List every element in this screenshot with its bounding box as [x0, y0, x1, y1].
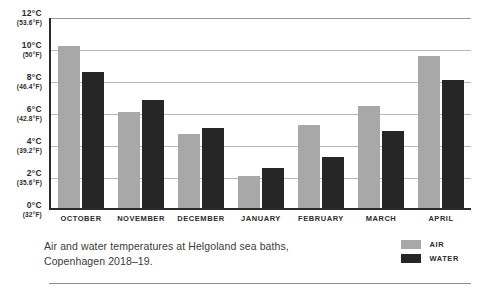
y-tick-celsius: 10°C: [0, 41, 42, 51]
y-tick-10: 10°C(50°F): [0, 41, 42, 58]
legend-label-water: WATER: [429, 254, 459, 263]
y-tick-0: 0°C(32°F): [0, 201, 42, 218]
bar-water-october[interactable]: [82, 72, 104, 208]
bar-water-january[interactable]: [262, 168, 284, 208]
x-label-december: DECEMBER: [171, 214, 231, 223]
y-tick-12: 12°C(53.6°F): [0, 9, 42, 26]
legend-label-air: AIR: [429, 240, 444, 249]
bar-group-january: [231, 18, 291, 208]
y-tick-celsius: 2°C: [0, 169, 42, 179]
bar-water-march[interactable]: [382, 131, 404, 208]
bar-water-december[interactable]: [202, 128, 224, 208]
x-label-october: OCTOBER: [51, 214, 111, 223]
y-tick-4: 4°C(39.2°F): [0, 137, 42, 154]
y-tick-fahrenheit: (32°F): [0, 211, 42, 218]
bar-air-january[interactable]: [238, 176, 260, 208]
x-label-march: MARCH: [351, 214, 411, 223]
bar-air-february[interactable]: [298, 125, 320, 208]
bar-air-april[interactable]: [418, 56, 440, 208]
x-axis-labels: OCTOBERNOVEMBERDECEMBERJANUARYFEBRUARYMA…: [51, 214, 471, 223]
legend-item-air: AIR: [401, 240, 459, 249]
y-tick-fahrenheit: (39.2°F): [0, 147, 42, 154]
x-label-february: FEBRUARY: [291, 214, 351, 223]
y-tick-celsius: 6°C: [0, 105, 42, 115]
y-tick-celsius: 12°C: [0, 9, 42, 19]
y-tick-fahrenheit: (50°F): [0, 51, 42, 58]
caption-line-1: Air and water temperatures at Helgoland …: [44, 239, 344, 254]
bar-group-october: [51, 18, 111, 208]
bar-air-march[interactable]: [358, 106, 380, 208]
y-tick-fahrenheit: (35.6°F): [0, 179, 42, 186]
chart-figure: 12°C(53.6°F)10°C(50°F)8°C(46.4°F)6°C(42.…: [0, 0, 481, 294]
bar-group-april: [411, 18, 471, 208]
bar-group-february: [291, 18, 351, 208]
x-label-january: JANUARY: [231, 214, 291, 223]
x-label-november: NOVEMBER: [111, 214, 171, 223]
plot-area: [49, 18, 471, 210]
bar-groups: [51, 18, 471, 208]
legend-swatch-water-icon: [401, 254, 421, 263]
y-tick-6: 6°C(42.8°F): [0, 105, 42, 122]
y-tick-celsius: 0°C: [0, 201, 42, 211]
chart-legend: AIR WATER: [401, 240, 459, 263]
legend-item-water: WATER: [401, 254, 459, 263]
y-axis-labels: 12°C(53.6°F)10°C(50°F)8°C(46.4°F)6°C(42.…: [0, 18, 46, 210]
bar-water-april[interactable]: [442, 80, 464, 208]
y-tick-celsius: 8°C: [0, 73, 42, 83]
bar-group-december: [171, 18, 231, 208]
y-tick-fahrenheit: (53.6°F): [0, 19, 42, 26]
y-tick-8: 8°C(46.4°F): [0, 73, 42, 90]
bar-air-november[interactable]: [118, 112, 140, 208]
bottom-divider: [49, 283, 471, 284]
y-tick-fahrenheit: (42.8°F): [0, 115, 42, 122]
bar-water-february[interactable]: [322, 157, 344, 208]
x-label-april: APRIL: [411, 214, 471, 223]
y-tick-2: 2°C(35.6°F): [0, 169, 42, 186]
y-tick-celsius: 4°C: [0, 137, 42, 147]
bar-group-november: [111, 18, 171, 208]
bar-water-november[interactable]: [142, 100, 164, 208]
y-tick-fahrenheit: (46.4°F): [0, 83, 42, 90]
legend-swatch-air-icon: [401, 240, 421, 249]
bar-air-october[interactable]: [58, 46, 80, 208]
bar-group-march: [351, 18, 411, 208]
bar-air-december[interactable]: [178, 134, 200, 208]
caption-line-2: Copenhagen 2018–19.: [44, 254, 344, 269]
chart-caption: Air and water temperatures at Helgoland …: [44, 239, 344, 269]
